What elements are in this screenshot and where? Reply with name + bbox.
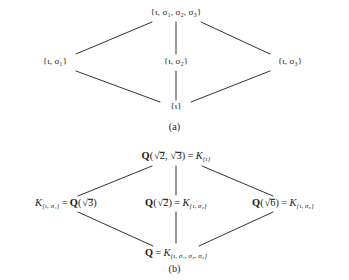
fixed-field-symbol: K — [35, 197, 42, 208]
edge-left-bottom — [78, 212, 153, 246]
lattice-node-a-left: {ι, σ₁} — [43, 57, 68, 66]
lattice-node-a-top: {ι, σ₁, σ₂, σ₃} — [151, 8, 202, 17]
equals-sign: = — [281, 197, 287, 208]
rational-field-symbol: Q — [70, 197, 78, 208]
fixed-field-subscript: {ι, σ₃} — [297, 202, 314, 209]
sqrt-3-radical: √3 — [170, 151, 182, 161]
sqrt-3-radical: √3 — [82, 198, 94, 208]
lattice-node-b-right: Q(√6) = K{ι, σ₃} — [252, 198, 314, 208]
sqrt-2-radical: √2 — [157, 198, 169, 208]
edge-top-left — [78, 166, 152, 196]
fixed-field-symbol: K — [163, 247, 170, 258]
fixed-field-subscript: {ι, σ₂} — [190, 202, 207, 209]
rational-field-symbol: Q — [252, 197, 260, 208]
equals-sign: = — [62, 197, 68, 208]
figure-caption-b: (b) — [0, 263, 349, 274]
paren-close: ) — [182, 150, 186, 161]
lattice-node-b-bottom: Q = K{ι, σ₁, σ₂, σ₃} — [145, 248, 207, 258]
rational-field-symbol: Q — [142, 150, 150, 161]
figure-caption-a: (a) — [0, 121, 349, 132]
paren-close: ) — [169, 197, 173, 208]
lattice-node-b-left: K{ι, σ₁} = Q(√3) — [35, 198, 97, 208]
sqrt-6-radical: √6 — [264, 198, 276, 208]
node-label-a-middle: {ι, σ₂} — [164, 56, 189, 66]
edge-right-bottom — [199, 212, 273, 246]
fixed-field-subscript: {ι} — [203, 155, 211, 162]
lattice-node-a-bottom: {ι} — [170, 102, 182, 111]
fixed-field-subscript: {ι, σ₁} — [42, 202, 59, 209]
lattice-edges-a — [0, 0, 349, 140]
lattice-node-a-right: {ι, σ₃} — [278, 57, 303, 66]
node-label-a-left: {ι, σ₁} — [43, 56, 68, 66]
equals-sign: = — [174, 197, 180, 208]
edge-right-bottom — [191, 71, 270, 102]
lattice-node-a-middle: {ι, σ₂} — [164, 57, 189, 66]
paren-close: ) — [276, 197, 280, 208]
lattice-node-b-middle: Q(√2) = K{ι, σ₂} — [145, 198, 207, 208]
rational-field-symbol: Q — [145, 197, 153, 208]
edge-left-bottom — [76, 71, 160, 102]
sqrt-2-radical: √2 — [153, 151, 165, 161]
node-label-a-bottom: {ι} — [170, 101, 182, 111]
subgroup-lattice-diagram: {ι, σ₁, σ₂, σ₃} {ι, σ₁} {ι, σ₂} {ι, σ₃} … — [0, 0, 349, 140]
node-label-a-top: {ι, σ₁, σ₂, σ₃} — [151, 7, 202, 17]
edge-top-right — [202, 166, 273, 196]
rational-field-symbol: Q — [145, 247, 153, 258]
equals-sign: = — [155, 247, 161, 258]
node-label-a-right: {ι, σ₃} — [278, 56, 303, 66]
paren-close: ) — [93, 197, 97, 208]
lattice-node-b-top: Q(√2, √3) = K{ι} — [142, 151, 211, 161]
edge-top-left — [76, 22, 152, 54]
fixed-field-subscript: {ι, σ₁, σ₂, σ₃} — [171, 252, 208, 259]
equals-sign: = — [187, 150, 193, 161]
field-lattice-diagram: Q(√2, √3) = K{ι} K{ι, σ₁} = Q(√3) Q(√2) … — [0, 140, 349, 280]
edge-top-right — [201, 22, 270, 54]
